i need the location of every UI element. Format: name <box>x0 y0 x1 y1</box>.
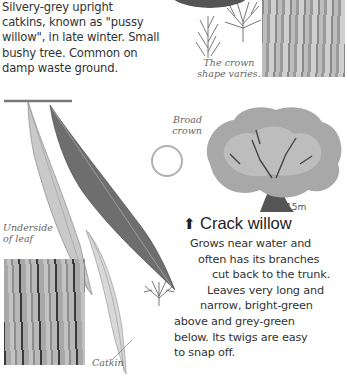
label-line: Underside <box>3 222 53 233</box>
text-line: damp waste ground. <box>2 61 182 76</box>
species-title: ⬆Crack willow <box>183 214 292 233</box>
text-line: cut back to the trunk. <box>0 267 345 283</box>
text-line: Silvery-grey upright <box>2 0 182 15</box>
text-line: catkins, known as "pussy <box>2 15 182 30</box>
text-line: below. Its twigs are easy <box>0 330 345 346</box>
text-line: to snap off. <box>0 345 345 361</box>
species-description: Grows near water and often has its branc… <box>0 236 345 361</box>
bark-illustration-top <box>262 0 345 77</box>
text-line: above and grey-green <box>0 314 345 330</box>
marker-circle-icon <box>151 145 183 177</box>
text-line: narrow, bright-green <box>0 298 345 314</box>
label-line: Broad <box>172 114 202 125</box>
caption-line: The crown <box>196 57 262 68</box>
text-line: willow", in late winter. Small <box>2 30 182 45</box>
tree-height-label: 15m <box>286 202 306 212</box>
text-line: often has its branches <box>0 252 345 268</box>
text-line: bushy tree. Common on <box>2 46 182 61</box>
species-name: Crack willow <box>200 214 292 232</box>
text-line: Grows near water and <box>0 236 345 252</box>
text-line: Leaves very long and <box>0 283 345 299</box>
arrow-up-icon: ⬆ <box>183 215 196 232</box>
narrow-crown-sketch-icon <box>190 12 226 58</box>
crack-willow-tree-illustration <box>200 104 346 212</box>
previous-species-description: Silvery-grey upright catkins, known as "… <box>2 0 182 76</box>
broad-crown-sketch-icon <box>223 0 263 42</box>
crown-shape-caption: The crown shape varies. <box>196 57 262 79</box>
label-line: crown <box>172 125 202 136</box>
broad-crown-label: Broad crown <box>172 114 202 136</box>
caption-line: shape varies. <box>196 68 262 79</box>
